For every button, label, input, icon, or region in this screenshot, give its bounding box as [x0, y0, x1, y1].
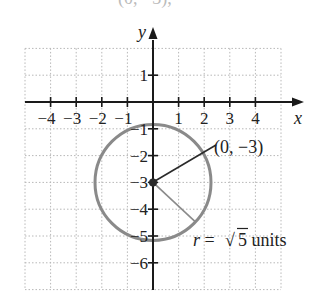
y-tick-label: −3: [130, 173, 148, 192]
y-tick-label: 1: [140, 66, 149, 85]
y-axis-label: y: [136, 22, 146, 42]
center-label: (0, −3): [214, 137, 263, 158]
svg-text:r =: r =: [193, 230, 215, 250]
y-tick-label: −4: [130, 200, 149, 219]
y-tick-label: −1: [130, 120, 148, 139]
radius-equals: =: [200, 230, 215, 250]
sqrt-icon: √: [225, 230, 235, 250]
x-axis-arrow-icon: [292, 98, 304, 107]
y-axis-arrow-icon: [149, 27, 158, 39]
coordinate-diagram: (0, −3), −4−3−2−11234 1−1−2−3−4−5−6 y x …: [0, 0, 330, 301]
x-tick-label: −3: [63, 109, 81, 128]
x-tick-label: 3: [226, 109, 235, 128]
radius-line: [153, 182, 195, 222]
y-tick-label: −5: [130, 227, 148, 246]
x-tick-label: 1: [174, 109, 183, 128]
x-tick-label: −2: [89, 109, 107, 128]
radius-units: units: [247, 230, 287, 250]
y-tick-label: −2: [130, 147, 148, 166]
radius-value: 5: [238, 230, 247, 250]
partial-top-text: (0, −3),: [118, 0, 172, 9]
y-tick-label: −6: [130, 254, 148, 273]
x-axis-label: x: [293, 108, 302, 128]
x-tick-label: 4: [251, 109, 260, 128]
x-tick-label: 2: [200, 109, 209, 128]
x-tick-label: −4: [38, 109, 57, 128]
plot-canvas: (0, −3), −4−3−2−11234 1−1−2−3−4−5−6 y x …: [0, 0, 330, 301]
radius-label: r = √ 5 units: [193, 229, 287, 251]
